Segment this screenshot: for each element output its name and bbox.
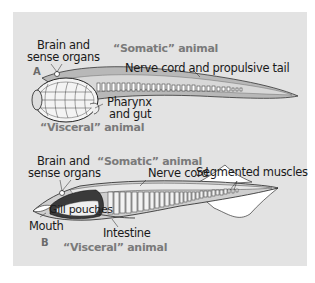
a-brain-label-line2: sense organs <box>27 51 100 63</box>
b-intestine-label: Intestine <box>103 227 151 239</box>
b-mouth-label: Mouth <box>29 220 64 232</box>
b-panel-letter: B <box>41 237 48 249</box>
b-brain-label-line2: sense organs <box>28 167 101 179</box>
a-panel-letter: A <box>33 66 40 78</box>
b-segmented-muscles-label: Segmented muscles <box>196 166 308 178</box>
a-pharynx-label-line2: and gut <box>109 108 151 120</box>
b-visceral-label: “Visceral” animal <box>63 242 167 254</box>
a-visceral-label: “Visceral” animal <box>40 122 144 134</box>
a-somatic-label: “Somatic” animal <box>113 43 218 55</box>
a-nerve-cord-label: Nerve cord and propulsive tail <box>125 62 289 74</box>
b-gill-pouches-label: Gill pouches <box>49 204 113 216</box>
